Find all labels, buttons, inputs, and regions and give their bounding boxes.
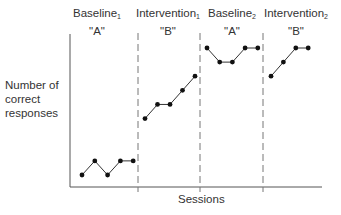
- data-point: [180, 88, 185, 93]
- data-point: [217, 60, 222, 65]
- x-axis-label: Sessions: [178, 193, 225, 205]
- data-point: [168, 102, 173, 107]
- data-point: [205, 46, 210, 51]
- data-point: [193, 74, 198, 79]
- phase-line: [145, 76, 195, 118]
- data-point: [255, 46, 260, 51]
- axes: [70, 34, 322, 187]
- data-point: [306, 46, 311, 51]
- data-point: [281, 60, 286, 65]
- phase-dividers: [138, 33, 263, 192]
- phase-label-intervention-2: Intervention2 "B": [256, 6, 336, 38]
- data-point: [243, 46, 248, 51]
- data-point: [269, 74, 274, 79]
- data-point: [131, 158, 136, 163]
- data-point: [80, 173, 85, 178]
- data-series: [80, 46, 311, 178]
- data-point: [293, 46, 298, 51]
- y-axis-label: Number of correct responses: [5, 78, 59, 120]
- data-point: [230, 60, 235, 65]
- data-point: [155, 102, 160, 107]
- phase-label-baseline-1: Baseline1 "A": [57, 6, 137, 38]
- data-point: [143, 116, 148, 121]
- data-point: [105, 173, 110, 178]
- data-point: [92, 158, 97, 163]
- phase-line: [271, 48, 308, 76]
- data-point: [118, 158, 123, 163]
